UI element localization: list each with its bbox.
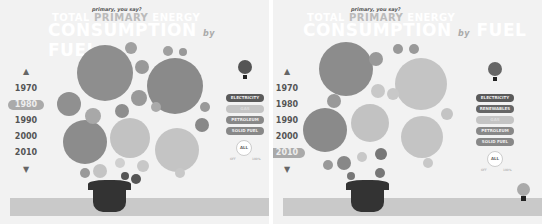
bubble[interactable] — [131, 174, 141, 184]
bubble[interactable] — [319, 42, 373, 96]
dial-min: OFF — [230, 157, 236, 161]
year-selector: ▲ 1970 1980 1990 2000 2010 ▼ — [273, 66, 305, 176]
bubble[interactable] — [163, 46, 173, 56]
fuel-button-solid-fuel[interactable]: SOLID FUEL — [226, 127, 264, 135]
bubble[interactable] — [441, 108, 453, 120]
year-2000[interactable]: 2000 — [8, 132, 44, 142]
title-consumption: CONSUMPTION — [303, 20, 452, 40]
dial-max: 100% — [252, 157, 261, 161]
bubble[interactable] — [125, 42, 137, 54]
bubble[interactable] — [179, 48, 187, 56]
title-by: by — [203, 29, 215, 38]
bubble-tree — [55, 40, 215, 200]
dial-max: 100% — [503, 168, 512, 172]
bubble[interactable] — [401, 116, 443, 158]
fuel-button-electricity[interactable]: ELECTRICITY — [226, 94, 264, 102]
fuel-button-renewables[interactable]: RENEWABLES — [476, 105, 514, 113]
dial-min: OFF — [481, 168, 487, 172]
bubble[interactable] — [395, 58, 447, 110]
bubble[interactable] — [393, 44, 403, 54]
year-2000[interactable]: 2000 — [273, 132, 305, 142]
bulb-icon — [238, 60, 252, 74]
year-2010[interactable]: 2010 — [273, 148, 305, 158]
fuel-button-solid-fuel[interactable]: SOLID FUEL — [476, 138, 514, 146]
bubble[interactable] — [137, 160, 149, 172]
year-1990[interactable]: 1990 — [8, 116, 44, 126]
bubble[interactable] — [85, 108, 101, 124]
bubble[interactable] — [303, 108, 347, 152]
bubble[interactable] — [375, 148, 387, 160]
bubble[interactable] — [200, 102, 210, 112]
bubble[interactable] — [195, 118, 209, 132]
bulb-icon — [488, 62, 502, 76]
fuel-button-gas[interactable]: GAS — [226, 105, 264, 113]
bubble[interactable] — [357, 152, 367, 162]
pot-rim — [346, 180, 389, 190]
bubble[interactable] — [57, 92, 81, 116]
year-1980[interactable]: 1980 — [273, 100, 305, 110]
bulb-base — [243, 75, 247, 79]
bubble[interactable] — [77, 45, 133, 101]
year-1990[interactable]: 1990 — [273, 116, 305, 126]
title-consumption: CONSUMPTION — [48, 20, 197, 40]
year-1970[interactable]: 1970 — [273, 84, 305, 94]
bulb-icon-small — [517, 183, 530, 196]
bubble[interactable] — [135, 60, 149, 74]
bulb-base — [493, 77, 497, 81]
up-arrow-icon[interactable]: ▲ — [273, 66, 305, 78]
panel-1980: primary, you say? TOTAL PRIMARY ENERGY C… — [0, 0, 269, 224]
bubble[interactable] — [155, 128, 199, 172]
bubble[interactable] — [369, 52, 383, 66]
bubble[interactable] — [423, 158, 433, 168]
title-by: by — [458, 29, 470, 38]
down-arrow-icon[interactable]: ▼ — [273, 164, 305, 176]
bubble[interactable] — [351, 104, 389, 142]
bubble[interactable] — [131, 90, 147, 106]
bulb-base-small — [521, 196, 526, 201]
bubble[interactable] — [347, 172, 355, 180]
bubble[interactable] — [80, 168, 90, 178]
all-dial[interactable]: ALL — [236, 140, 252, 156]
down-arrow-icon[interactable]: ▼ — [8, 164, 44, 176]
bubble[interactable] — [337, 156, 351, 170]
bubble[interactable] — [115, 158, 125, 168]
year-selector: ▲ 1970 1980 1990 2000 2010 ▼ — [8, 66, 44, 176]
pot-rim — [88, 180, 131, 190]
bubble-tree — [313, 42, 473, 202]
title-line2: CONSUMPTION by FUEL — [303, 20, 526, 40]
all-dial[interactable]: ALL — [487, 151, 503, 167]
fuel-button-gas[interactable]: GAS — [476, 116, 514, 124]
bubble[interactable] — [93, 164, 107, 178]
bubble[interactable] — [323, 160, 333, 170]
floor — [10, 198, 269, 216]
bubble[interactable] — [375, 168, 385, 178]
bubble[interactable] — [121, 172, 129, 180]
year-1970[interactable]: 1970 — [8, 84, 44, 94]
fuel-button-petroleum[interactable]: PETROLEUM — [476, 127, 514, 135]
up-arrow-icon[interactable]: ▲ — [8, 66, 44, 78]
fuel-button-electricity[interactable]: ELECTRICITY — [476, 94, 514, 102]
bubble[interactable] — [63, 120, 107, 164]
bubble[interactable] — [115, 104, 129, 118]
bubble[interactable] — [110, 118, 150, 158]
title-fuel: FUEL — [476, 20, 526, 40]
year-2010[interactable]: 2010 — [8, 148, 44, 158]
bubble[interactable] — [371, 84, 385, 98]
year-1980[interactable]: 1980 — [8, 100, 44, 110]
bubble[interactable] — [327, 94, 341, 108]
panel-2010: primary, you say? TOTAL PRIMARY ENERGY C… — [273, 0, 542, 224]
fuel-button-petroleum[interactable]: PETROLEUM — [226, 116, 264, 124]
bubble[interactable] — [409, 44, 419, 54]
bubble[interactable] — [387, 88, 399, 100]
bubble[interactable] — [151, 102, 161, 112]
bubble[interactable] — [175, 168, 185, 178]
